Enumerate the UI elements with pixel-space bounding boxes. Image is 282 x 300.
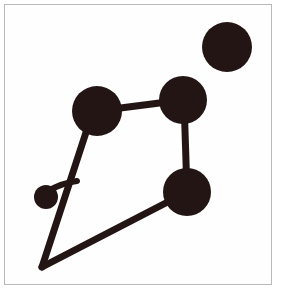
node-lower-right [163,168,211,216]
node-link-diagram [0,0,282,300]
node-top-right [202,22,252,72]
node-upper-right [159,76,207,124]
node-small-left [34,185,58,209]
node-upper-left [72,86,122,136]
figure-root: Constellation-style node and link diagra… [0,0,282,300]
